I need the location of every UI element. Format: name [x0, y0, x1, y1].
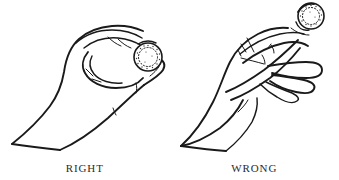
line-art-illustration [0, 0, 339, 180]
caption-wrong-label: WRONG [231, 162, 277, 175]
caption-right-label: RIGHT [66, 162, 104, 175]
caption-cell-wrong: WRONG [170, 158, 339, 176]
coin-right [134, 43, 162, 71]
figure-root: RIGHT WRONG [0, 0, 339, 180]
caption-cell-right: RIGHT [0, 158, 170, 176]
caption-row: RIGHT WRONG [0, 158, 339, 176]
